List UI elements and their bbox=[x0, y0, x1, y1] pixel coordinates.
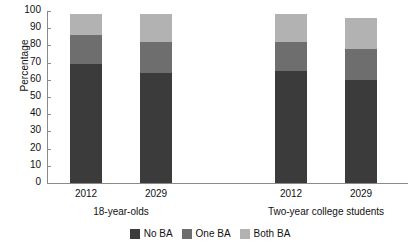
x-axis-tick-label: 2029 bbox=[121, 188, 191, 199]
y-tick-label-wrap: 30 bbox=[0, 131, 47, 132]
chart-legend: No BAOne BABoth BA bbox=[0, 228, 420, 239]
group-label: 18-year-olds bbox=[31, 206, 211, 217]
bar-segment-no-ba[interactable] bbox=[345, 80, 377, 183]
y-tick-label: 90 bbox=[0, 22, 47, 32]
y-tick-label: 60 bbox=[0, 74, 47, 84]
legend-label: Both BA bbox=[254, 228, 291, 239]
legend-item[interactable]: No BA bbox=[130, 228, 173, 239]
legend-item[interactable]: One BA bbox=[182, 228, 231, 239]
y-tick-label-wrap: 60 bbox=[0, 80, 47, 81]
legend-label: No BA bbox=[144, 228, 173, 239]
y-tick-label: 10 bbox=[0, 160, 47, 170]
bar-segment-no-ba[interactable] bbox=[140, 73, 172, 183]
bar-segment-both-ba[interactable] bbox=[345, 18, 377, 49]
group-label: Two-year college students bbox=[236, 206, 416, 217]
plot-area bbox=[48, 11, 408, 183]
x-axis-line bbox=[48, 183, 408, 184]
bar-segment-one-ba[interactable] bbox=[140, 42, 172, 73]
x-axis-tick-label: 2012 bbox=[51, 188, 121, 199]
x-axis-tick-label: 2029 bbox=[326, 188, 396, 199]
y-tick-label-wrap: 50 bbox=[0, 97, 47, 98]
bar[interactable] bbox=[140, 14, 172, 183]
y-tick-label-wrap: 0 bbox=[0, 183, 47, 184]
y-tick-label: 40 bbox=[0, 108, 47, 118]
bar-segment-no-ba[interactable] bbox=[70, 64, 102, 183]
y-tick-label-wrap: 100 bbox=[0, 11, 47, 12]
y-tick-label-wrap: 80 bbox=[0, 45, 47, 46]
bar-segment-both-ba[interactable] bbox=[275, 14, 307, 42]
bar-segment-one-ba[interactable] bbox=[275, 42, 307, 71]
y-tick-label-wrap: 40 bbox=[0, 114, 47, 115]
y-tick-label: 70 bbox=[0, 57, 47, 67]
legend-item[interactable]: Both BA bbox=[240, 228, 291, 239]
y-tick-label: 50 bbox=[0, 91, 47, 101]
y-tick-label-wrap: 90 bbox=[0, 28, 47, 29]
y-tick-label: 30 bbox=[0, 125, 47, 135]
y-tick-label: 20 bbox=[0, 143, 47, 153]
x-axis-tick-label: 2012 bbox=[256, 188, 326, 199]
legend-label: One BA bbox=[196, 228, 231, 239]
y-tick-label: 80 bbox=[0, 39, 47, 49]
y-tick-label-wrap: 20 bbox=[0, 149, 47, 150]
bar[interactable] bbox=[70, 14, 102, 183]
y-tick-label-wrap: 70 bbox=[0, 63, 47, 64]
bar-segment-both-ba[interactable] bbox=[70, 14, 102, 35]
bar-segment-one-ba[interactable] bbox=[70, 35, 102, 64]
bar[interactable] bbox=[345, 18, 377, 183]
legend-swatch-icon bbox=[240, 229, 250, 239]
legend-swatch-icon bbox=[182, 229, 192, 239]
bar-segment-no-ba[interactable] bbox=[275, 71, 307, 183]
y-tick-label: 100 bbox=[0, 5, 47, 15]
y-tick-label: 0 bbox=[0, 177, 47, 187]
y-tick-label-wrap: 10 bbox=[0, 166, 47, 167]
stacked-bar-chart: Percentage 0102030405060708090100 201220… bbox=[0, 0, 420, 250]
legend-swatch-icon bbox=[130, 229, 140, 239]
bar-segment-one-ba[interactable] bbox=[345, 49, 377, 80]
bar-segment-both-ba[interactable] bbox=[140, 14, 172, 42]
bar[interactable] bbox=[275, 14, 307, 183]
